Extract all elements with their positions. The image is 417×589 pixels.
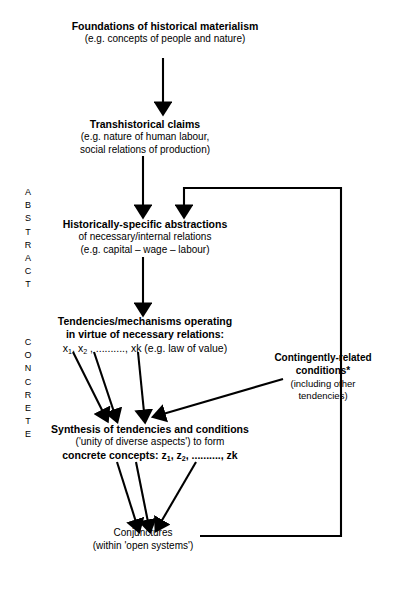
variable-x1: x1 [63, 342, 72, 354]
node-synthesis-line-2: ('unity of diverse aspects') to form [0, 436, 300, 449]
arrow-zk-to-conjunctures [161, 462, 196, 522]
node-synthesis: Synthesis of tendencies and conditions (… [0, 423, 300, 464]
variable-zk: zk [227, 449, 238, 461]
node-historically-specific-abstractions: Historically-specific abstractions of ne… [0, 218, 290, 257]
node-conjunctures: Conjunctures (within 'open systems') [28, 527, 258, 553]
variable-z1: z1 [161, 449, 170, 461]
variable-xk: xk [131, 342, 142, 354]
arrow-x1-to-synthesis [73, 352, 103, 412]
node-transhistorical-line-1: Transhistorical claims [0, 118, 290, 131]
node-historical-line-1: Historically-specific abstractions [0, 218, 290, 231]
variable-z2: z2 [177, 449, 186, 461]
node-foundations: Foundations of historical materialism (e… [0, 20, 330, 46]
node-transhistorical-line-2: (e.g. nature of human labour, [0, 131, 290, 144]
node-conditions-line-4: tendencies) [248, 390, 398, 402]
synthesis-prefix: concrete concepts: [62, 449, 158, 461]
node-synthesis-variables: concrete concepts: z1, z2, .........., z… [0, 449, 300, 464]
node-conditions-line-2: conditions* [248, 365, 398, 378]
node-historical-line-3: (e.g. capital – wage – labour) [0, 244, 290, 257]
node-tendencies-variables: x1, x2 , .........., xk (e.g. law of val… [0, 342, 290, 357]
arrow-x2-to-synthesis [94, 352, 114, 412]
arrow-layer [0, 0, 417, 589]
flow-diagram: A B S T R A C T C O N C R E T E Foundati… [0, 0, 417, 589]
node-transhistorical-line-3: social relations of production) [0, 144, 290, 157]
tendencies-suffix: (e.g. law of value) [144, 342, 227, 354]
arrow-z1-to-conjunctures [117, 462, 136, 522]
arrow-xk-to-synthesis [138, 352, 144, 412]
node-contingently-related-conditions: Contingently-related conditions* (includ… [248, 352, 398, 402]
node-foundations-line-2: (e.g. concepts of people and nature) [0, 33, 330, 46]
variable-x2: x2 [78, 342, 87, 354]
node-conjunctures-line-1: Conjunctures [28, 527, 258, 540]
node-conjunctures-line-2: (within 'open systems') [28, 540, 258, 553]
arrow-z2-to-conjunctures [136, 462, 148, 522]
node-foundations-line-1: Foundations of historical materialism [0, 20, 330, 33]
node-historical-line-2: of necessary/internal relations [0, 231, 290, 244]
node-tendencies-line-1: Tendencies/mechanisms operating [0, 315, 290, 328]
node-tendencies-mechanisms: Tendencies/mechanisms operating in virtu… [0, 315, 290, 357]
node-synthesis-line-1: Synthesis of tendencies and conditions [0, 423, 300, 436]
node-conditions-line-1: Contingently-related [248, 352, 398, 365]
node-transhistorical-claims: Transhistorical claims (e.g. nature of h… [0, 118, 290, 157]
node-conditions-line-3: (including other [248, 378, 398, 390]
node-tendencies-line-2: in virtue of necessary relations: [0, 328, 290, 341]
